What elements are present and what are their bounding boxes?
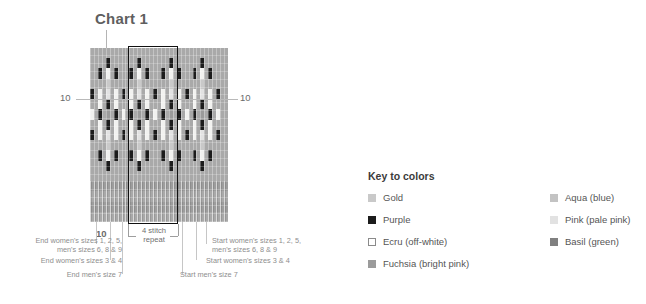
chart-cell-rib bbox=[224, 212, 228, 222]
annotation-end-women-34: End women's sizes 3 & 4 bbox=[36, 256, 122, 265]
chart-cell bbox=[224, 79, 228, 89]
legend-item-label: Pink (pale pink) bbox=[565, 214, 630, 225]
row-marker-right: 10 bbox=[240, 92, 251, 103]
chart-cell bbox=[224, 161, 228, 171]
chart-cell bbox=[224, 120, 228, 130]
annotation-tick-right-3 bbox=[182, 222, 183, 274]
row-marker-right-line bbox=[166, 99, 238, 100]
legend-item: Ecru (off-white) bbox=[368, 236, 550, 247]
legend-item: Gold bbox=[368, 192, 550, 203]
legend: Key to colors GoldPurpleEcru (off-white)… bbox=[368, 170, 640, 269]
row-marker-left-line bbox=[76, 99, 152, 100]
purple-swatch bbox=[368, 216, 376, 224]
legend-item-label: Basil (green) bbox=[565, 236, 619, 247]
legend-item: Aqua (blue) bbox=[550, 192, 640, 203]
chart-cell-rib bbox=[224, 181, 228, 191]
basil-swatch bbox=[550, 238, 558, 246]
legend-title: Key to colors bbox=[368, 170, 640, 182]
legend-item: Pink (pale pink) bbox=[550, 214, 640, 225]
row-marker-left: 10 bbox=[60, 92, 71, 103]
annotation-end-women-125-men-689: End women's sizes 1, 2, 5, men's sizes 6… bbox=[18, 236, 122, 255]
gold-swatch bbox=[368, 194, 376, 202]
chart-cell bbox=[224, 130, 228, 140]
fuchsia-swatch bbox=[368, 260, 376, 268]
annotation-start-women-125-men-689: Start women's sizes 1, 2, 5, men's sizes… bbox=[212, 236, 342, 255]
legend-item: Basil (green) bbox=[550, 236, 640, 247]
pink-swatch bbox=[550, 216, 558, 224]
legend-item-label: Fuchsia (bright pink) bbox=[383, 258, 469, 269]
annotation-tick-left-3 bbox=[122, 222, 123, 274]
annotation-tick-right-1 bbox=[206, 222, 207, 244]
ecru-swatch bbox=[368, 238, 376, 246]
chart-cell bbox=[224, 99, 228, 109]
legend-item-label: Gold bbox=[383, 192, 403, 203]
chart-cell bbox=[224, 171, 228, 181]
legend-item-label: Ecru (off-white) bbox=[383, 236, 447, 247]
chart-cell-rib bbox=[224, 202, 228, 212]
annotation-start-women-34: Start women's sizes 3 & 4 bbox=[206, 256, 342, 265]
legend-item: Purple bbox=[368, 214, 550, 225]
chart-cell bbox=[224, 140, 228, 150]
legend-column-right: Aqua (blue)Pink (pale pink)Basil (green) bbox=[550, 192, 640, 269]
chart-cell-rib bbox=[224, 191, 228, 201]
title-leader-line bbox=[106, 30, 107, 50]
chart-cell bbox=[224, 58, 228, 68]
legend-item-label: Purple bbox=[383, 214, 410, 225]
knitting-chart-grid bbox=[90, 48, 228, 222]
legend-item: Fuchsia (bright pink) bbox=[368, 258, 550, 269]
annotation-start-men-7: Start men's size 7 bbox=[180, 270, 300, 279]
chart-page: Chart 1 10 10 10 4 stitch repeat End wom… bbox=[0, 0, 646, 304]
aqua-swatch bbox=[550, 194, 558, 202]
repeat-bracket-right-vertical bbox=[178, 224, 179, 236]
annotation-tick-right-2 bbox=[196, 222, 197, 260]
page-title: Chart 1 bbox=[95, 10, 148, 27]
chart-cell bbox=[224, 68, 228, 78]
annotation-end-men-7: End men's size 7 bbox=[56, 270, 122, 279]
repeat-bracket-left-vertical bbox=[128, 224, 129, 236]
repeat-caption: 4 stitch repeat bbox=[133, 226, 175, 244]
chart-cell bbox=[224, 150, 228, 160]
legend-item-label: Aqua (blue) bbox=[565, 192, 614, 203]
chart-cell bbox=[224, 109, 228, 119]
chart-cell bbox=[224, 89, 228, 99]
chart-cell bbox=[224, 48, 228, 58]
legend-column-left: GoldPurpleEcru (off-white)Fuchsia (brigh… bbox=[368, 192, 550, 269]
